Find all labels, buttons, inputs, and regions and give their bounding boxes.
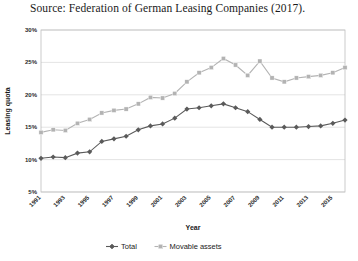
x-axis-tick-labels: 1991199319951997199920012003200520072009… xyxy=(28,194,334,208)
data-point xyxy=(88,117,92,121)
x-tick-label: 2003 xyxy=(174,194,188,208)
data-point xyxy=(221,101,226,106)
leasing-quota-chart: 30%25%20%15%10%5% 1991199319951997199920… xyxy=(0,16,358,261)
data-point xyxy=(245,109,250,114)
data-point xyxy=(63,128,67,132)
data-point xyxy=(136,102,140,106)
plot-area-border xyxy=(41,30,345,192)
data-point xyxy=(209,103,214,108)
data-point xyxy=(233,105,238,110)
data-point xyxy=(294,125,299,130)
series-total xyxy=(38,101,347,161)
data-point xyxy=(51,128,55,132)
y-tick-label: 25% xyxy=(25,59,38,65)
x-tick-label: 2011 xyxy=(271,194,285,208)
data-point xyxy=(306,75,310,79)
data-point xyxy=(270,76,274,80)
x-tick-label: 1995 xyxy=(77,194,91,208)
data-point xyxy=(124,134,129,139)
data-point xyxy=(51,154,56,159)
data-point xyxy=(282,80,286,84)
x-tick-label: 2007 xyxy=(223,194,237,208)
data-point xyxy=(112,108,116,112)
data-point xyxy=(161,96,165,100)
data-point xyxy=(39,130,43,134)
y-axis-tick-labels: 30%25%20%15%10%5% xyxy=(25,27,38,195)
x-tick-label: 2001 xyxy=(150,194,164,208)
legend-marker xyxy=(109,244,114,249)
data-point xyxy=(257,117,262,122)
series-line xyxy=(41,59,345,133)
x-tick-label: 1993 xyxy=(52,194,66,208)
series-line xyxy=(41,104,345,158)
x-tick-label: 2015 xyxy=(320,194,334,208)
data-point xyxy=(148,123,153,128)
x-tick-label: 1997 xyxy=(101,194,115,208)
data-point xyxy=(160,121,165,126)
data-series-group xyxy=(38,56,347,160)
data-point xyxy=(111,136,116,141)
data-point xyxy=(75,121,79,125)
y-tick-label: 30% xyxy=(25,27,38,33)
legend-label: Movable assets xyxy=(170,242,222,251)
x-tick-label: 2013 xyxy=(296,194,310,208)
data-point xyxy=(342,117,347,122)
y-tick-label: 15% xyxy=(25,124,38,130)
data-point xyxy=(306,124,311,129)
data-point xyxy=(258,59,262,63)
chart-legend: TotalMovable assets xyxy=(106,242,222,251)
data-point xyxy=(148,95,152,99)
data-point xyxy=(185,80,189,84)
chart-canvas: 30%25%20%15%10%5% 1991199319951997199920… xyxy=(0,16,358,261)
x-tick-label: 2005 xyxy=(198,194,212,208)
data-point xyxy=(282,125,287,130)
data-point xyxy=(294,76,298,80)
data-point xyxy=(330,121,335,126)
data-point xyxy=(136,127,141,132)
data-point xyxy=(38,156,43,161)
x-tick-label: 1999 xyxy=(125,194,139,208)
legend-label: Total xyxy=(121,242,137,251)
data-point xyxy=(319,73,323,77)
data-point xyxy=(124,107,128,111)
y-tick-label: 5% xyxy=(28,189,37,195)
data-point xyxy=(196,105,201,110)
data-point xyxy=(221,56,225,60)
x-tick-label: 1991 xyxy=(28,194,42,208)
data-point xyxy=(246,73,250,77)
data-point xyxy=(100,111,104,115)
data-point xyxy=(269,125,274,130)
y-tick-label: 20% xyxy=(25,92,38,98)
data-point xyxy=(331,71,335,75)
series-movable-assets xyxy=(39,56,347,134)
legend-marker xyxy=(158,244,162,248)
x-axis-title: Year xyxy=(186,224,201,231)
y-tick-label: 10% xyxy=(25,157,38,163)
data-point xyxy=(233,63,237,67)
data-point xyxy=(343,65,347,69)
y-axis-title: Leasing quota xyxy=(4,87,12,135)
data-point xyxy=(209,65,213,69)
data-point xyxy=(173,91,177,95)
gridlines-group xyxy=(41,30,345,192)
data-point xyxy=(197,71,201,75)
data-point xyxy=(318,123,323,128)
data-point xyxy=(75,151,80,156)
x-tick-label: 2009 xyxy=(247,194,261,208)
source-caption: Source: Federation of German Leasing Com… xyxy=(30,2,305,14)
